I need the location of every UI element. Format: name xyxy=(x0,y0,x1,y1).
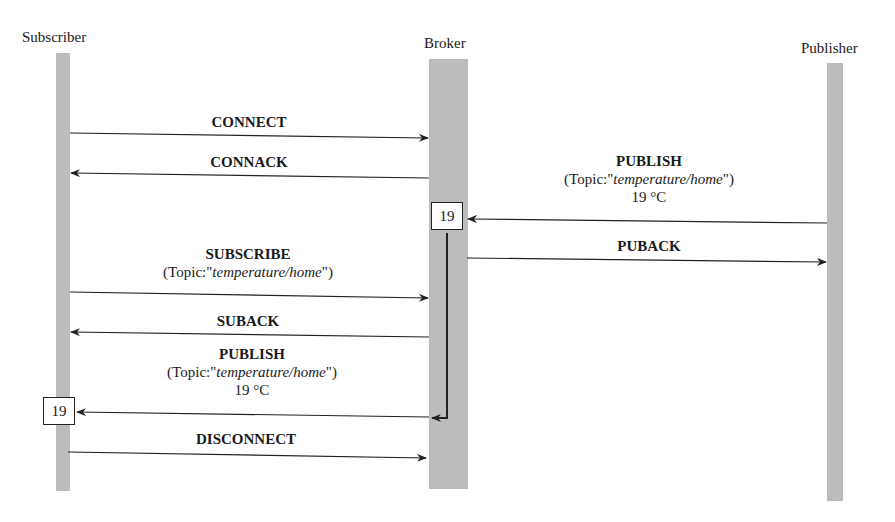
publish-out-arrow xyxy=(77,412,429,417)
suback-label: SUBACK xyxy=(217,312,280,330)
publish-in-arrow xyxy=(468,219,827,223)
publish-in-label: PUBLISH (Topic:"temperature/home") 19 °C xyxy=(564,152,734,206)
connack-label: CONNACK xyxy=(210,153,288,171)
subscriber-value-box: 19 xyxy=(43,397,75,425)
broker-value-box: 19 xyxy=(431,202,463,230)
connack-arrow xyxy=(71,173,429,178)
publish-out-label: PUBLISH (Topic:"temperature/home") 19 °C xyxy=(167,345,337,399)
connect-arrow xyxy=(70,133,428,138)
connect-label: CONNECT xyxy=(211,113,286,131)
subscribe-label: SUBSCRIBE (Topic:"temperature/home") xyxy=(163,245,333,281)
suback-arrow xyxy=(71,332,429,337)
disconnect-label: DISCONNECT xyxy=(196,430,296,448)
broker-forward-path xyxy=(432,233,447,418)
subscribe-arrow xyxy=(70,292,428,298)
message-arrows xyxy=(0,0,895,522)
puback-label: PUBACK xyxy=(617,237,680,255)
puback-arrow xyxy=(467,258,826,262)
disconnect-arrow xyxy=(68,452,426,458)
